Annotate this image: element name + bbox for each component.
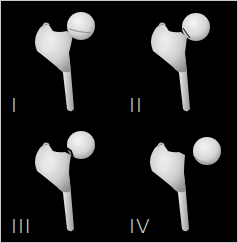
panel-label: II (129, 95, 143, 115)
panel-type-2: II (119, 1, 237, 121)
panel-type-4: IV (119, 121, 237, 242)
garden-classification-figure: I II III (1, 1, 237, 242)
panel-label: I (11, 95, 18, 115)
panel-label: III (11, 216, 32, 236)
panel-type-1: I (1, 1, 119, 121)
panel-type-3: III (1, 121, 119, 242)
panel-label: IV (129, 216, 151, 236)
femur-illustration (1, 1, 119, 121)
